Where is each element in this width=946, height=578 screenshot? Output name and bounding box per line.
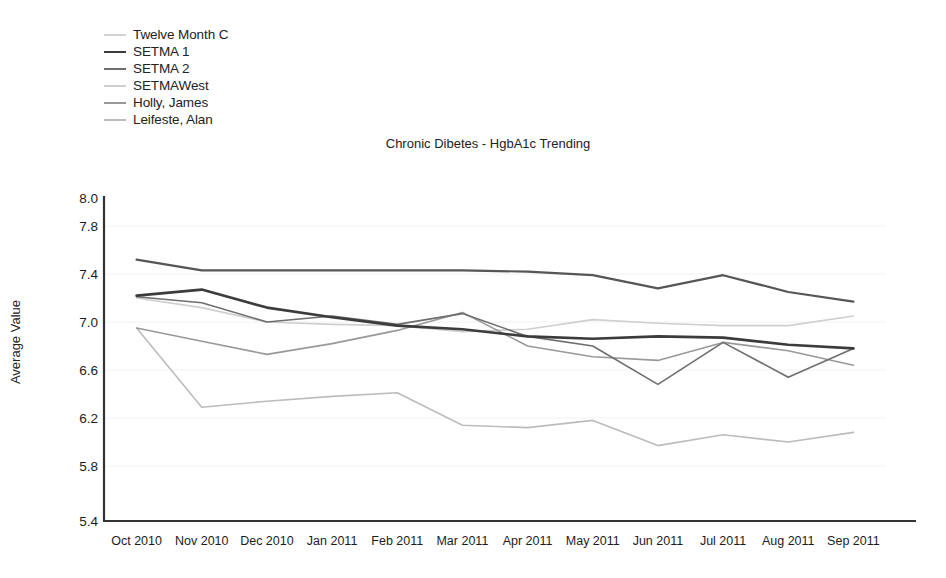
legend-label: Twelve Month C bbox=[133, 26, 228, 43]
x-tick-label: Sep 2011 bbox=[827, 534, 880, 548]
legend-label: SETMA 2 bbox=[133, 60, 189, 77]
series-line-leifeste-alan bbox=[137, 328, 854, 446]
x-tick-label: Aug 2011 bbox=[762, 534, 815, 548]
series-line-setma-1 bbox=[137, 290, 854, 349]
y-axis-title: Average Value bbox=[8, 300, 23, 384]
x-tick-label: Mar 2011 bbox=[436, 534, 488, 548]
legend-label: Holly, James bbox=[133, 94, 208, 111]
legend-item[interactable]: Twelve Month C bbox=[104, 26, 228, 43]
legend-item[interactable]: SETMA 1 bbox=[104, 43, 228, 60]
y-tick-label: 7.0 bbox=[58, 315, 98, 330]
y-tick-label: 7.4 bbox=[58, 267, 98, 282]
x-tick-label: Feb 2011 bbox=[371, 534, 423, 548]
legend-item[interactable]: SETMA 2 bbox=[104, 60, 228, 77]
y-tick-label: 6.6 bbox=[58, 363, 98, 378]
series-line-twelve-month-c bbox=[137, 260, 854, 302]
chart-legend: Twelve Month CSETMA 1SETMA 2SETMAWestHol… bbox=[104, 26, 228, 128]
y-axis-tick-labels: 8.07.87.47.06.66.25.85.4 bbox=[52, 0, 98, 578]
x-tick-label: Jan 2011 bbox=[307, 534, 358, 548]
legend-label: Leifeste, Alan bbox=[133, 111, 213, 128]
y-tick-label: 6.2 bbox=[58, 411, 98, 426]
y-tick-label: 7.8 bbox=[58, 219, 98, 234]
y-tick-label: 5.4 bbox=[58, 514, 98, 529]
legend-label: SETMA 1 bbox=[133, 43, 189, 60]
legend-item[interactable]: Holly, James bbox=[104, 94, 228, 111]
legend-label: SETMAWest bbox=[133, 77, 209, 94]
legend-swatch-4 bbox=[104, 85, 126, 87]
legend-swatch-6 bbox=[104, 119, 126, 121]
legend-swatch-2 bbox=[104, 51, 126, 53]
x-tick-label: Jul 2011 bbox=[700, 534, 746, 548]
legend-item[interactable]: Leifeste, Alan bbox=[104, 111, 228, 128]
x-tick-label: May 2011 bbox=[566, 534, 620, 548]
x-tick-label: Nov 2010 bbox=[175, 534, 229, 548]
chart-root: Twelve Month CSETMA 1SETMA 2SETMAWestHol… bbox=[0, 0, 946, 578]
legend-swatch-1 bbox=[104, 34, 126, 36]
chart-title: Chronic Dibetes - HgbA1c Trending bbox=[0, 136, 946, 151]
series-line-holly-james bbox=[137, 312, 854, 365]
y-tick-label: 8.0 bbox=[58, 191, 98, 206]
series-line-setma-2 bbox=[137, 297, 854, 385]
y-tick-label: 5.8 bbox=[58, 459, 98, 474]
x-tick-label: Oct 2010 bbox=[111, 534, 162, 548]
legend-swatch-5 bbox=[104, 102, 126, 104]
x-tick-label: Jun 2011 bbox=[633, 534, 684, 548]
x-tick-label: Apr 2011 bbox=[503, 534, 553, 548]
legend-item[interactable]: SETMAWest bbox=[104, 77, 228, 94]
x-tick-label: Dec 2010 bbox=[240, 534, 294, 548]
legend-swatch-3 bbox=[104, 68, 126, 70]
series-line-setmawest bbox=[137, 298, 854, 332]
